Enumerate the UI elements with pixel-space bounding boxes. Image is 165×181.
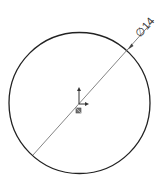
fixed-point-icon: [76, 108, 81, 113]
dimension-label-group[interactable]: ∅14: [133, 15, 157, 40]
diameter-dimension-text[interactable]: ∅14: [133, 15, 157, 40]
dimension-arrowhead: [128, 44, 134, 50]
sketch-canvas: ∅14: [0, 0, 165, 181]
diameter-dimension-line[interactable]: [33, 20, 154, 155]
origin-axis-icon: [77, 87, 89, 106]
